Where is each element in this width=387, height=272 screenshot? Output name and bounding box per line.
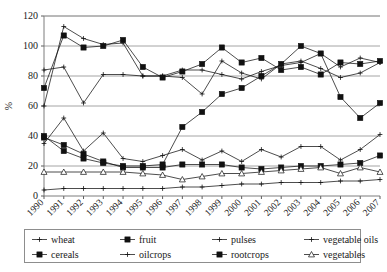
marker-plus <box>140 186 145 191</box>
x-tick-label: 2005 <box>321 197 342 218</box>
marker-square <box>279 67 284 72</box>
marker-square <box>200 61 205 66</box>
marker-square <box>338 60 343 65</box>
marker-plus <box>200 68 205 73</box>
series-line <box>44 180 380 191</box>
marker-plus <box>239 71 244 76</box>
marker-square <box>120 163 125 168</box>
series-line <box>44 27 380 107</box>
legend-item-cereals[interactable]: cereals <box>31 249 119 260</box>
legend-item-fruit[interactable]: fruit <box>119 234 211 245</box>
marker-plus <box>318 180 323 185</box>
y-tick-label: 60 <box>28 100 38 111</box>
marker-square <box>217 252 222 257</box>
marker-square <box>338 94 343 99</box>
marker-plus <box>180 185 185 190</box>
marker-plus <box>81 101 86 106</box>
series-line <box>44 168 380 180</box>
marker-square <box>298 64 303 69</box>
x-tick-label: 2007 <box>361 197 382 218</box>
legend-item-vegetable-oils[interactable]: vegetable oils <box>303 234 378 245</box>
marker-square <box>37 252 42 257</box>
marker-plus <box>219 59 224 64</box>
marker-plus <box>42 188 47 193</box>
series-line <box>44 36 380 89</box>
marker-square <box>101 160 106 165</box>
chart-legend: wheatfruitpulsesvegetable oilscerealsoil… <box>24 229 361 263</box>
marker-plus <box>358 71 363 76</box>
y-axis-title: % <box>3 102 14 110</box>
legend-item-rootcrops[interactable]: rootcrops <box>211 249 303 260</box>
marker-plus <box>299 144 304 149</box>
gridlines <box>44 16 380 166</box>
legend-label: oilcrops <box>139 249 171 260</box>
marker-square <box>81 156 86 161</box>
marker-square <box>338 162 343 167</box>
marker-plus <box>42 68 47 73</box>
marker-square <box>318 72 323 77</box>
marker-plus <box>180 147 185 152</box>
legend-item-wheat[interactable]: wheat <box>31 234 119 245</box>
marker-plus <box>318 66 323 71</box>
marker-plus <box>299 180 304 185</box>
marker-square <box>180 162 185 167</box>
marker-square <box>219 45 224 50</box>
marker-square <box>41 133 46 138</box>
x-tick-label: 2004 <box>302 197 323 218</box>
legend-item-vegetables[interactable]: vegetables <box>303 249 378 260</box>
y-axis-title-text: % <box>3 102 14 110</box>
marker-plus <box>378 177 383 182</box>
series-vegetables <box>41 165 383 182</box>
marker-square <box>318 51 323 56</box>
marker-plus <box>61 186 66 191</box>
marker-plus <box>259 182 264 187</box>
marker-plus <box>37 237 42 242</box>
marker-plus <box>81 36 86 41</box>
marker-square <box>200 162 205 167</box>
legend-marker-square-icon <box>119 234 136 245</box>
marker-plus <box>61 65 66 70</box>
marker-square <box>61 142 66 147</box>
marker-square <box>279 61 284 66</box>
marker-plus <box>125 252 130 257</box>
marker-square <box>160 162 165 167</box>
x-tick-label: 1990 <box>25 197 46 218</box>
marker-square <box>239 85 244 90</box>
legend-label: wheat <box>51 234 75 245</box>
series-vegetable-oils <box>42 177 383 192</box>
series-line <box>44 138 380 170</box>
marker-plus <box>219 149 224 154</box>
marker-plus <box>217 237 222 242</box>
legend-label: cereals <box>51 249 79 260</box>
marker-plus <box>338 179 343 184</box>
marker-plus <box>160 153 165 158</box>
marker-plus <box>239 182 244 187</box>
marker-square <box>180 69 185 74</box>
marker-plus <box>200 185 205 190</box>
x-tick-label: 1992 <box>64 197 85 218</box>
x-tick-label: 1999 <box>203 197 224 218</box>
series-layer <box>41 24 383 192</box>
marker-square <box>239 165 244 170</box>
legend-label: vegetable oils <box>323 234 378 245</box>
marker-plus <box>81 186 86 191</box>
marker-square <box>377 100 382 105</box>
x-tick-labels: 1990199119921993199419951996199719981999… <box>25 197 382 218</box>
series-line <box>44 54 380 104</box>
legend-marker-plus-icon <box>31 234 48 245</box>
legend-item-pulses[interactable]: pulses <box>211 234 303 245</box>
marker-square <box>239 60 244 65</box>
chart-figure: 020406080100120 199019911992199319941995… <box>0 0 387 272</box>
marker-square <box>219 91 224 96</box>
legend-item-oilcrops[interactable]: oilcrops <box>119 249 211 260</box>
marker-plus <box>101 186 106 191</box>
marker-plus <box>318 144 323 149</box>
marker-plus <box>239 159 244 164</box>
marker-square <box>358 61 363 66</box>
y-tick-label: 80 <box>28 70 38 81</box>
x-tick-label: 1994 <box>104 197 125 218</box>
series-oilcrops <box>42 116 383 164</box>
marker-square <box>377 153 382 158</box>
series-pulses <box>42 24 383 108</box>
x-tick-label: 1995 <box>124 197 145 218</box>
